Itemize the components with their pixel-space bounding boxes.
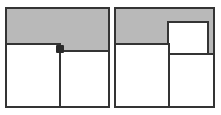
right-lower-right-white-square: [168, 53, 215, 108]
right-upper-right-white-square: [167, 21, 209, 55]
left-interior-junction-dot: [56, 45, 64, 53]
right-lower-left-white-square: [114, 43, 170, 108]
left-lower-left-white-square: [5, 43, 61, 108]
left-lower-right-white-square: [59, 50, 110, 108]
geometric-diagram-figure: [0, 0, 221, 115]
